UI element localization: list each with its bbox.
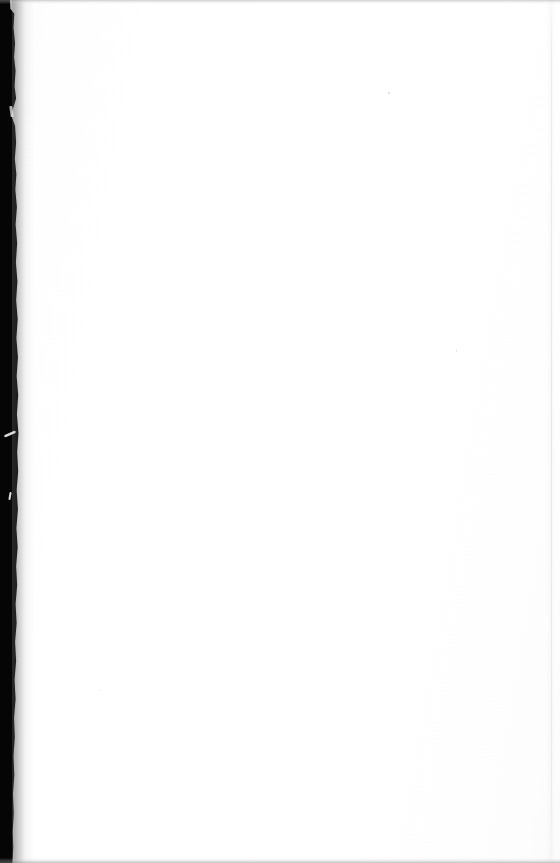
page-edge-band-bottom bbox=[0, 858, 560, 863]
scanned-page bbox=[0, 0, 560, 863]
dust-speck bbox=[456, 349, 457, 352]
page-content-area bbox=[30, 10, 546, 853]
page-edge-halo bbox=[546, 0, 554, 863]
page-edge-line-right bbox=[551, 0, 552, 863]
dust-speck bbox=[388, 92, 390, 94]
dust-speck bbox=[100, 690, 102, 691]
page-edge-band-top bbox=[0, 0, 560, 4]
